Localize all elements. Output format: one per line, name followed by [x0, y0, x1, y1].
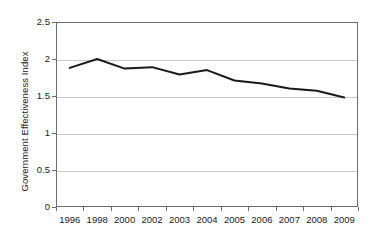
x-tick-label: 2007: [279, 214, 300, 225]
y-axis-title: Government Effectiveness Index: [16, 0, 32, 243]
x-tick-mark: [138, 207, 139, 211]
x-tick-label: 2003: [169, 214, 190, 225]
y-tick-label: 1: [45, 127, 50, 138]
x-tick-mark: [331, 207, 332, 211]
x-tick-label: 2002: [142, 214, 163, 225]
x-tick-mark: [193, 207, 194, 211]
data-series-line: [56, 22, 358, 207]
y-tick-label: 2: [45, 53, 50, 64]
x-tick-label: 2006: [251, 214, 272, 225]
y-tick-label: 2.5: [37, 16, 50, 27]
x-tick-label: 2008: [306, 214, 327, 225]
x-tick-label: 1996: [59, 214, 80, 225]
x-tick-label: 2005: [224, 214, 245, 225]
x-tick-mark: [303, 207, 304, 211]
x-tick-mark: [56, 207, 57, 211]
y-tick-label: 0.5: [37, 164, 50, 175]
x-tick-mark: [83, 207, 84, 211]
line-chart: Government Effectiveness Index 00.511.52…: [0, 0, 371, 243]
x-tick-mark: [276, 207, 277, 211]
y-tick-label: 1.5: [37, 90, 50, 101]
x-tick-mark: [221, 207, 222, 211]
y-tick-label: 0: [45, 201, 50, 212]
x-tick-label: 2000: [114, 214, 135, 225]
x-tick-label: 2004: [196, 214, 217, 225]
x-tick-mark: [358, 207, 359, 211]
x-tick-mark: [111, 207, 112, 211]
x-tick-mark: [248, 207, 249, 211]
x-tick-label: 2009: [334, 214, 355, 225]
x-tick-label: 1998: [87, 214, 108, 225]
x-tick-mark: [166, 207, 167, 211]
